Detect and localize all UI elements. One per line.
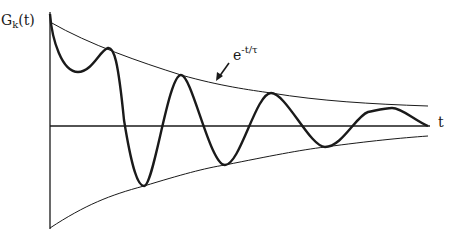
damped-oscillation-curve xyxy=(50,14,428,186)
y-axis-label: Gk(t) xyxy=(1,12,35,30)
t-axis-label: t xyxy=(438,114,444,130)
damped-oscillation-plot xyxy=(0,0,464,231)
upper-envelope-curve xyxy=(50,22,428,106)
envelope-label: e-t/τ xyxy=(233,44,258,63)
